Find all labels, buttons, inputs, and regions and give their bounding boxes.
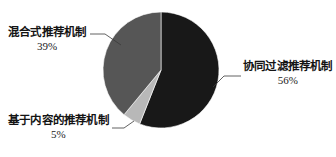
slice-label-hybrid-name: 混合式推荐机制	[8, 26, 86, 39]
slice-label-hybrid-percent: 39%	[8, 40, 86, 52]
slice-label-content-based: 基于内容的推荐机制 5%	[8, 114, 109, 140]
slice-label-collaborative-percent: 56%	[243, 74, 333, 86]
slice-label-content-based-name: 基于内容的推荐机制	[8, 114, 109, 127]
leader-line-content-based	[112, 121, 134, 128]
slice-label-collaborative-name: 协同过滤推荐机制	[243, 60, 333, 73]
slice-label-content-based-percent: 5%	[8, 128, 109, 140]
pie-chart-figure: 协同过滤推荐机制 56% 混合式推荐机制 39% 基于内容的推荐机制 5%	[0, 0, 336, 157]
slice-label-collaborative: 协同过滤推荐机制 56%	[243, 60, 333, 86]
slice-label-hybrid: 混合式推荐机制 39%	[8, 26, 86, 52]
